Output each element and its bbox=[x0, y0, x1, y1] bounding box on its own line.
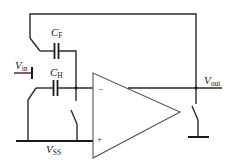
ch-sampling-switch bbox=[28, 88, 36, 100]
vss-label: VSS bbox=[46, 143, 61, 157]
node-reset-switch bbox=[71, 110, 77, 124]
vin-label: Vin bbox=[15, 59, 28, 73]
circuit-diagram: − + CF CH Vin Vout VSS bbox=[0, 0, 232, 160]
cf-reset-switch bbox=[30, 38, 40, 51]
opamp-inverting-sign: − bbox=[98, 84, 103, 94]
opamp-triangle bbox=[93, 73, 180, 158]
output-reset-switch bbox=[192, 106, 198, 120]
vout-label: Vout bbox=[204, 74, 221, 88]
opamp-noninverting-sign: + bbox=[97, 134, 102, 144]
ch-label: CH bbox=[50, 66, 63, 80]
cf-label: CF bbox=[51, 26, 63, 40]
cf-right-wire bbox=[59, 51, 76, 88]
